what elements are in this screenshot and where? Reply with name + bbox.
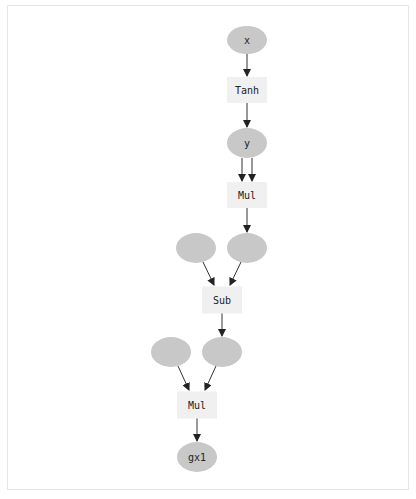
variable-ellipse: [202, 337, 242, 367]
variable-ellipse: [227, 233, 267, 263]
variable-node-v2: [227, 233, 267, 263]
variable-node-v1: [176, 233, 216, 263]
function-node-tanh: Tanh: [227, 77, 267, 103]
variable-node-v4: [202, 337, 242, 367]
variable-ellipse: [151, 337, 191, 367]
node-label: Sub: [213, 295, 231, 306]
variable-ellipse: [176, 233, 216, 263]
edge-v1-to-sub: [203, 262, 214, 285]
node-label: Mul: [188, 400, 206, 411]
edge-v4-to-mul2: [205, 366, 216, 390]
function-node-mul2: Mul: [177, 392, 217, 419]
node-label: Mul: [238, 190, 256, 201]
variable-node-y: y: [227, 128, 267, 158]
node-label: gx1: [188, 452, 206, 463]
variable-node-gx1: gx1: [177, 442, 217, 472]
node-label: y: [244, 138, 250, 149]
nodes-layer: xTanhyMulSubMulgx1: [151, 26, 267, 472]
node-label: x: [244, 35, 250, 46]
edge-v2-to-sub: [230, 262, 241, 285]
edge-v3-to-mul2: [178, 366, 189, 390]
function-node-mul1: Mul: [227, 182, 267, 208]
variable-node-v3: [151, 337, 191, 367]
computational-graph: xTanhyMulSubMulgx1: [0, 0, 416, 499]
variable-node-x: x: [227, 26, 267, 54]
function-node-sub: Sub: [202, 287, 242, 314]
node-label: Tanh: [235, 85, 259, 96]
